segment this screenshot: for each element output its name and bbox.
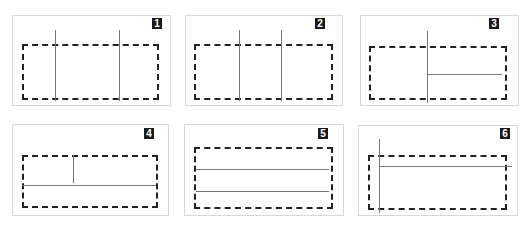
dashed-frame-6 (368, 155, 507, 210)
vertical-line-6 (379, 139, 380, 213)
horizontal-line-4 (22, 185, 156, 186)
horizontal-line-3 (427, 74, 502, 75)
horizontal-line-6 (379, 166, 512, 167)
dashed-frame-4 (22, 155, 158, 208)
dashed-frame-2 (194, 44, 333, 100)
header-text-cropped (0, 0, 527, 3)
vertical-line-2b (281, 30, 282, 101)
horizontal-line-5a (196, 169, 329, 170)
dashed-frame-1 (22, 44, 159, 100)
vertical-line-3 (427, 31, 428, 103)
dashed-frame-3 (369, 46, 507, 100)
panel-number-badge-3: 3 (489, 18, 499, 29)
vertical-line-2a (239, 30, 240, 101)
panel-number-badge-5: 5 (318, 128, 328, 139)
dashed-frame-5 (194, 147, 333, 209)
panel-number-badge-2: 2 (315, 18, 325, 29)
vertical-line-1a (55, 30, 56, 101)
vertical-line-1b (119, 30, 120, 101)
panel-number-badge-1: 1 (152, 18, 162, 29)
horizontal-line-5b (196, 191, 329, 192)
vertical-line-4 (73, 155, 74, 183)
panel-number-badge-6: 6 (500, 128, 510, 139)
panel-number-badge-4: 4 (144, 128, 154, 139)
